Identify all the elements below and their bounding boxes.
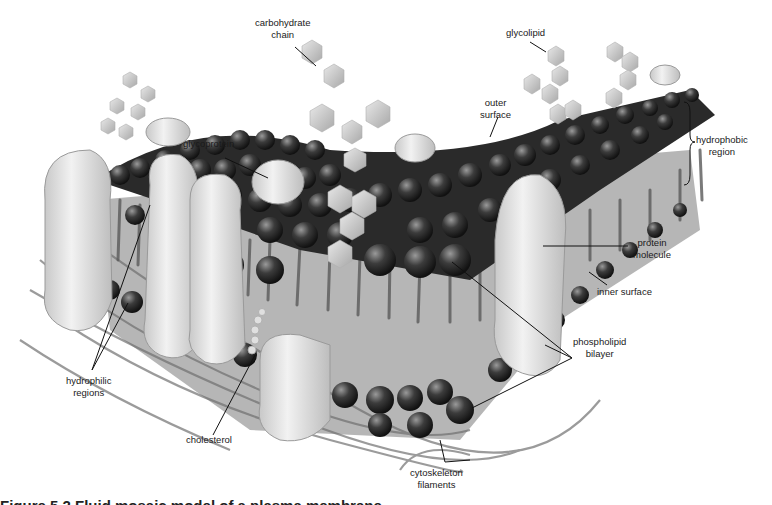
label-cholesterol: cholesterol (186, 434, 232, 446)
figure-caption: Figure 5.2 Fluid mosaic model of a plasm… (0, 497, 382, 505)
label-glycolipid: glycolipid (506, 27, 545, 39)
membrane-diagram: carbohydrate chain glycolipid glycoprote… (0, 0, 772, 505)
label-carbohydrate-chain: carbohydrate chain (255, 17, 310, 41)
label-outer-surface: outer surface (480, 97, 511, 121)
label-inner-surface: inner surface (597, 286, 652, 298)
label-glycoprotein: glycoprotein (183, 138, 234, 150)
label-protein-molecule: protein molecule (633, 237, 671, 261)
label-phospholipid-bilayer: phospholipid bilayer (573, 336, 626, 360)
label-hydrophilic-regions: hydrophilic regions (66, 375, 111, 399)
label-hydrophobic-region: hydrophobic region (696, 134, 748, 158)
label-cytoskeleton-filaments: cytoskeleton filaments (410, 467, 463, 491)
